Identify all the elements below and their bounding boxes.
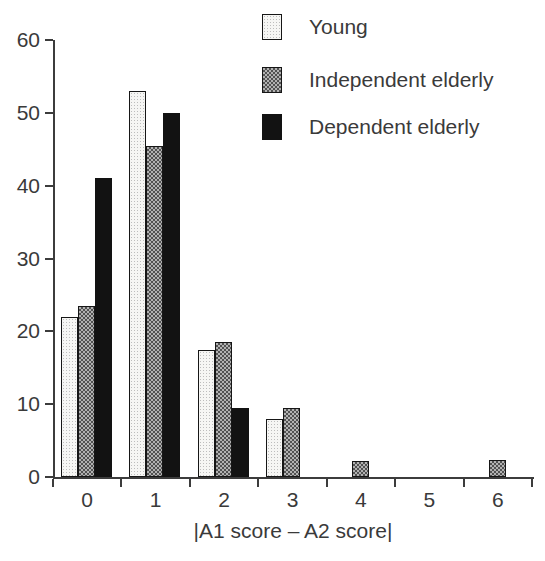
- x-tick-label: 0: [53, 488, 121, 512]
- bar: [352, 461, 369, 477]
- x-tick-label: 3: [258, 488, 326, 512]
- y-tick: [45, 330, 53, 332]
- bar: [95, 178, 112, 477]
- x-tick: [463, 479, 465, 487]
- independent-elderly-swatch-icon: [262, 67, 282, 93]
- y-axis-line: [53, 40, 55, 479]
- x-axis-title: |A1 score – A2 score|: [53, 519, 533, 543]
- dependent-elderly-swatch-icon: [262, 114, 282, 140]
- x-tick: [120, 479, 122, 487]
- bar: [266, 419, 283, 477]
- y-tick: [45, 258, 53, 260]
- bar: [146, 146, 163, 477]
- bar: [198, 350, 215, 477]
- x-tick-label: 1: [121, 488, 189, 512]
- y-tick-label: 0: [0, 465, 40, 489]
- legend-label: Young: [309, 13, 368, 40]
- y-tick: [45, 476, 53, 478]
- bar: [163, 113, 180, 477]
- y-tick-label: 40: [0, 174, 40, 198]
- young-swatch-icon: [262, 14, 282, 40]
- bar: [129, 91, 146, 477]
- x-tick-label: 2: [190, 488, 258, 512]
- bar: [61, 317, 78, 477]
- y-tick: [45, 403, 53, 405]
- y-tick-label: 10: [0, 392, 40, 416]
- x-tick: [394, 479, 396, 487]
- bar-chart-figure: 01020304050600123456 Young Independent e…: [0, 0, 545, 561]
- bar: [78, 306, 95, 477]
- x-tick: [531, 479, 533, 487]
- x-tick-label: 4: [327, 488, 395, 512]
- bar: [215, 342, 232, 477]
- x-tick-label: 6: [464, 488, 532, 512]
- x-tick: [326, 479, 328, 487]
- x-tick: [189, 479, 191, 487]
- y-tick-label: 50: [0, 101, 40, 125]
- bar: [489, 460, 506, 477]
- y-tick: [45, 185, 53, 187]
- legend-label: Dependent elderly: [309, 113, 479, 140]
- y-tick-label: 60: [0, 28, 40, 52]
- y-tick: [45, 112, 53, 114]
- x-tick: [52, 479, 54, 487]
- legend-label: Independent elderly: [309, 66, 493, 93]
- legend-item-young: Young: [262, 13, 368, 40]
- x-tick-label: 5: [395, 488, 463, 512]
- y-tick-label: 20: [0, 319, 40, 343]
- x-tick: [257, 479, 259, 487]
- legend-item-independent-elderly: Independent elderly: [262, 66, 493, 93]
- bar: [232, 408, 249, 477]
- y-tick: [45, 39, 53, 41]
- legend-item-dependent-elderly: Dependent elderly: [262, 113, 479, 140]
- bar: [283, 408, 300, 477]
- y-tick-label: 30: [0, 247, 40, 271]
